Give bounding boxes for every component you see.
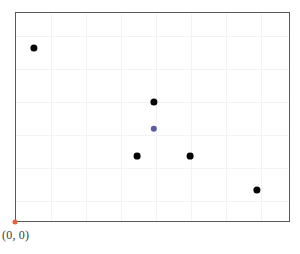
gridline-vertical xyxy=(51,13,52,221)
origin-label: (0, 0) xyxy=(2,228,29,243)
gridline-vertical xyxy=(261,13,262,221)
origin-marker-icon xyxy=(13,220,18,225)
data-point[interactable] xyxy=(30,44,37,51)
data-point[interactable] xyxy=(253,186,260,193)
gridline-vertical xyxy=(226,13,227,221)
gridline-vertical xyxy=(156,13,157,221)
gridline-horizontal xyxy=(16,201,289,202)
gridline-horizontal xyxy=(16,135,289,136)
plot-area xyxy=(15,12,290,222)
data-point[interactable] xyxy=(134,153,141,160)
data-point[interactable] xyxy=(187,153,194,160)
gridline-horizontal xyxy=(16,69,289,70)
gridline-horizontal xyxy=(16,36,289,37)
gridline-horizontal xyxy=(16,168,289,169)
gridline-vertical xyxy=(86,13,87,221)
gridline-vertical xyxy=(121,13,122,221)
scatter-plot-canvas: (0, 0) xyxy=(0,0,300,254)
gridline-vertical xyxy=(191,13,192,221)
